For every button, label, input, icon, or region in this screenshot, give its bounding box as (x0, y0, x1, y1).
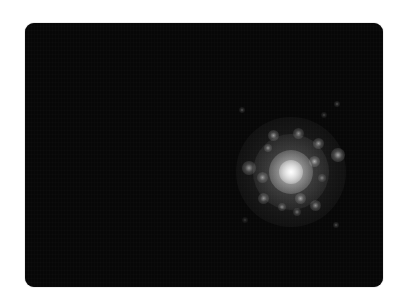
image-noise-texture (25, 23, 383, 287)
diffraction-image-frame (25, 23, 383, 287)
image-canvas (0, 0, 405, 308)
